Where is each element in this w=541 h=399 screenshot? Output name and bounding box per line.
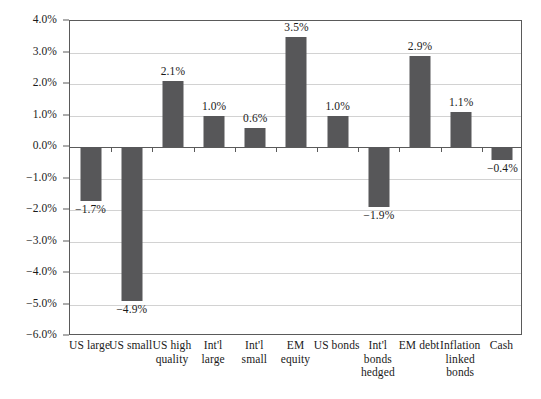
bar[interactable] [286, 37, 307, 147]
x-category-label: US small [109, 339, 152, 353]
bar-group[interactable]: 2.1% [152, 21, 193, 334]
bar-value-label: −0.4% [487, 163, 518, 175]
x-category-label: EM equity [281, 339, 310, 366]
bar-value-label: 1.0% [202, 101, 226, 113]
x-category-label: US large [69, 339, 110, 353]
bar-group[interactable]: 1.0% [317, 21, 358, 334]
bar-value-label: 1.0% [325, 101, 349, 113]
x-category-label: Inflation linked bonds [440, 339, 481, 380]
bar[interactable] [121, 147, 142, 301]
bar-value-label: −1.9% [363, 210, 394, 222]
y-tick-label: −6.0% [26, 329, 57, 341]
bar-value-label: 1.1% [449, 97, 473, 109]
bar-group[interactable]: −1.7% [70, 21, 111, 334]
bar[interactable] [245, 128, 266, 147]
x-category-label: Int'l bonds hedged [361, 339, 395, 380]
bar-group[interactable]: 3.5% [276, 21, 317, 334]
x-category-label: EM debt [399, 339, 440, 353]
y-tick-label: 1.0% [33, 109, 57, 121]
x-axis: US largeUS smallUS high qualityInt'l lar… [69, 339, 522, 395]
x-category-label: US bonds [314, 339, 360, 353]
y-tick-label: 4.0% [33, 14, 57, 26]
bar-group[interactable]: −4.9% [111, 21, 152, 334]
bar[interactable] [80, 147, 101, 201]
bar[interactable] [162, 81, 183, 147]
bar-group[interactable]: 0.6% [235, 21, 276, 334]
y-tick-label: −5.0% [26, 298, 57, 310]
y-tick-label: −1.0% [26, 172, 57, 184]
x-category-label: US high quality [153, 339, 192, 366]
bar-group[interactable]: −0.4% [482, 21, 523, 334]
y-tick-label: 2.0% [33, 77, 57, 89]
y-tick-label: 0.0% [33, 140, 57, 152]
bar-value-label: 3.5% [284, 22, 308, 34]
x-category-label: Cash [490, 339, 513, 353]
bar[interactable] [327, 116, 348, 148]
bar-group[interactable]: 1.1% [441, 21, 482, 334]
bar[interactable] [410, 56, 431, 147]
bar-group[interactable]: 2.9% [399, 21, 440, 334]
bar[interactable] [451, 112, 472, 147]
x-category-label: Int'l small [242, 339, 267, 366]
y-tick-label: −3.0% [26, 235, 57, 247]
y-tick-label: 3.0% [33, 46, 57, 58]
bar-value-label: 0.6% [243, 113, 267, 125]
y-axis: 4.0%3.0%2.0%1.0%0.0%−1.0%−2.0%−3.0%−4.0%… [0, 20, 69, 335]
bar-value-label: 2.9% [408, 41, 432, 53]
y-tick-label: −2.0% [26, 203, 57, 215]
bar-chart-figure: 4.0%3.0%2.0%1.0%0.0%−1.0%−2.0%−3.0%−4.0%… [0, 0, 541, 399]
bar-value-label: −4.9% [116, 304, 147, 316]
bar-group[interactable]: 1.0% [194, 21, 235, 334]
bar-value-label: 2.1% [161, 66, 185, 78]
bar-group[interactable]: −1.9% [358, 21, 399, 334]
plot-area: −1.7%−4.9%2.1%1.0%0.6%3.5%1.0%−1.9%2.9%1… [69, 20, 522, 335]
y-tick-label: −4.0% [26, 266, 57, 278]
x-category-label: Int'l large [201, 339, 224, 366]
bar-value-label: −1.7% [75, 204, 106, 216]
bar[interactable] [204, 116, 225, 148]
bar[interactable] [368, 147, 389, 207]
bar[interactable] [492, 147, 513, 160]
